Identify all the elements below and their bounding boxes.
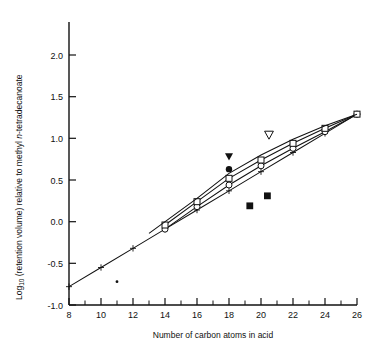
svg-text:20: 20 xyxy=(256,310,266,320)
svg-text:26: 26 xyxy=(352,310,362,320)
y-axis-ticks xyxy=(69,55,76,305)
svg-text:0.0: 0.0 xyxy=(50,217,63,227)
point-filled-circle xyxy=(226,166,232,172)
chart-figure: Log10 (retention volume) relative to met… xyxy=(0,0,368,353)
svg-text:-0.5: -0.5 xyxy=(47,259,63,269)
plot-area xyxy=(66,111,360,290)
marker-open-square xyxy=(290,140,296,146)
svg-text:0.5: 0.5 xyxy=(50,176,63,186)
point-filled-square-a xyxy=(264,192,271,199)
x-tick-labels: 8 10 12 14 16 18 20 22 24 26 xyxy=(66,310,362,320)
y-tick-labels: -1.0 -0.5 0.0 0.5 1.0 1.5 2.0 xyxy=(47,51,63,311)
y-axis-label: Log10 (retention volume) relative to met… xyxy=(14,74,25,300)
point-open-triangle-down xyxy=(265,131,274,139)
marker-open-square xyxy=(258,157,264,163)
svg-text:Log10 (retention volume) relat: Log10 (retention volume) relative to met… xyxy=(14,74,25,300)
svg-text:14: 14 xyxy=(160,310,170,320)
point-small-dot xyxy=(116,280,119,283)
point-filled-triangle-down xyxy=(225,153,233,160)
svg-text:1.5: 1.5 xyxy=(50,92,63,102)
series-line-0 xyxy=(69,114,357,287)
svg-text:1.0: 1.0 xyxy=(50,134,63,144)
series-calibration-line-1 xyxy=(66,111,360,290)
svg-text:12: 12 xyxy=(128,310,138,320)
marker-open-square xyxy=(226,175,232,181)
svg-text:24: 24 xyxy=(320,310,330,320)
marker-open-circle xyxy=(258,163,264,169)
point-filled-square-b xyxy=(246,202,253,209)
svg-text:22: 22 xyxy=(288,310,298,320)
marker-open-circle xyxy=(226,182,232,188)
x-axis-label: Number of carbon atoms in acid xyxy=(153,330,274,340)
svg-text:18: 18 xyxy=(224,310,234,320)
svg-text:-1.0: -1.0 xyxy=(47,301,63,311)
marker-open-square xyxy=(354,111,360,117)
svg-text:8: 8 xyxy=(66,310,71,320)
svg-text:10: 10 xyxy=(96,310,106,320)
svg-text:16: 16 xyxy=(192,310,202,320)
svg-text:2.0: 2.0 xyxy=(50,51,63,61)
chart-svg: Log10 (retention volume) relative to met… xyxy=(0,0,368,353)
